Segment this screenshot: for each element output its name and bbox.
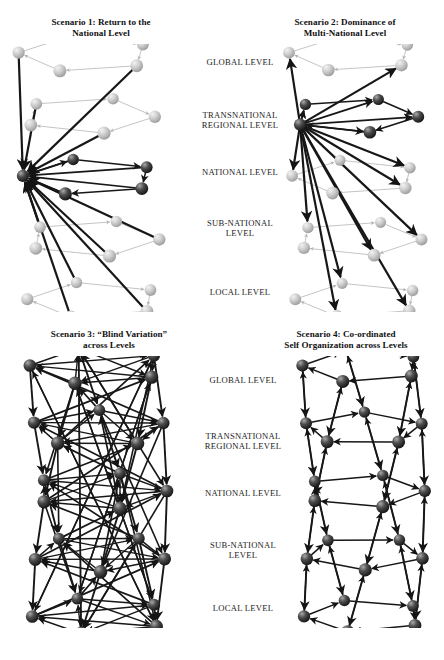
level-label-text: TRANSNATIONAL bbox=[203, 110, 278, 120]
level-label-text-2: REGIONAL LEVEL bbox=[205, 441, 281, 451]
level-label-local-bottom: LOCAL LEVEL bbox=[183, 604, 303, 614]
scenario-3-diagram bbox=[14, 356, 184, 628]
figure-canvas: Scenario 1: Return to the National Level… bbox=[0, 0, 444, 660]
scenario-1-diagram bbox=[6, 44, 174, 312]
level-label-text: SUB-NATIONAL bbox=[207, 218, 273, 228]
level-label-text: GLOBAL LEVEL bbox=[207, 57, 274, 67]
scenario-2-diagram bbox=[276, 44, 436, 312]
scenario-4-title-line1: Scenario 4: Co-ordinated bbox=[296, 329, 395, 339]
scenario-4-title-line2: Self Organization across Levels bbox=[284, 340, 407, 350]
level-label-text: GLOBAL LEVEL bbox=[210, 375, 277, 385]
scenario-3-title-line2: across Levels bbox=[83, 340, 135, 350]
level-label-text: LOCAL LEVEL bbox=[210, 287, 270, 297]
level-label-transnational-bottom: TRANSNATIONAL REGIONAL LEVEL bbox=[183, 432, 303, 452]
level-label-global-bottom: GLOBAL LEVEL bbox=[183, 376, 303, 386]
level-label-text: TRANSNATIONAL bbox=[206, 431, 281, 441]
level-label-national-bottom: NATIONAL LEVEL bbox=[183, 489, 303, 499]
scenario-3-title-line1: Scenario 3: “Blind Variation” bbox=[51, 329, 167, 339]
level-label-text: SUB-NATIONAL bbox=[210, 540, 276, 550]
level-label-text: LOCAL LEVEL bbox=[213, 603, 273, 613]
level-label-text-2: LEVEL bbox=[229, 550, 257, 560]
scenario-3-title: Scenario 3: “Blind Variation” across Lev… bbox=[14, 329, 204, 351]
cropped-header-text bbox=[0, 0, 444, 8]
scenario-2-title: Scenario 2: Dominance of Multi-National … bbox=[250, 17, 440, 39]
scenario-1-title: Scenario 1: Return to the National Level bbox=[8, 17, 194, 39]
scenario-1-title-line1: Scenario 1: Return to the bbox=[51, 17, 150, 27]
level-label-text: NATIONAL LEVEL bbox=[205, 488, 281, 498]
level-label-text: NATIONAL LEVEL bbox=[202, 167, 278, 177]
scenario-1-title-line2: National Level bbox=[72, 28, 130, 38]
scenario-2-title-line1: Scenario 2: Dominance of bbox=[295, 17, 396, 27]
scenario-4-title: Scenario 4: Co-ordinated Self Organizati… bbox=[248, 329, 444, 351]
level-label-subnational-bottom: SUB-NATIONAL LEVEL bbox=[183, 541, 303, 561]
level-label-text-2: LEVEL bbox=[226, 228, 254, 238]
level-label-text-2: REGIONAL LEVEL bbox=[202, 120, 278, 130]
scenario-2-title-line2: Multi-National Level bbox=[304, 28, 387, 38]
scenario-4-diagram bbox=[288, 356, 440, 628]
